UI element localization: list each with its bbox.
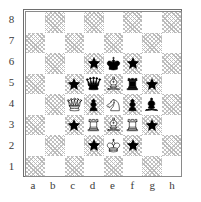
- square-a2[interactable]: [26, 135, 45, 156]
- square-e5[interactable]: [104, 74, 123, 95]
- square-h5[interactable]: [162, 74, 181, 95]
- square-g1[interactable]: [142, 156, 161, 177]
- rank-label-5: 5: [0, 72, 23, 93]
- square-a8[interactable]: [26, 12, 45, 33]
- square-e4[interactable]: [104, 94, 123, 115]
- file-label-d: d: [83, 180, 103, 200]
- square-c6[interactable]: [65, 53, 84, 74]
- file-label-a: a: [23, 180, 43, 200]
- star-marker-icon: [142, 115, 161, 136]
- square-g3[interactable]: [142, 115, 161, 136]
- square-a5[interactable]: [26, 74, 45, 95]
- square-e2[interactable]: [104, 135, 123, 156]
- square-b3[interactable]: [45, 115, 64, 136]
- square-d6[interactable]: [84, 53, 103, 74]
- rank-label-2: 2: [0, 135, 23, 156]
- square-d2[interactable]: [84, 135, 103, 156]
- star-marker-icon: [123, 135, 142, 156]
- white-bishop-icon: [104, 115, 123, 136]
- square-c4[interactable]: [65, 94, 84, 115]
- square-c2[interactable]: [65, 135, 84, 156]
- square-f8[interactable]: [123, 12, 142, 33]
- black-king-icon: [104, 53, 123, 74]
- file-label-c: c: [63, 180, 83, 200]
- white-rook-icon: [84, 115, 103, 136]
- square-h7[interactable]: [162, 33, 181, 54]
- rank-label-8: 8: [0, 9, 23, 30]
- square-h3[interactable]: [162, 115, 181, 136]
- square-g7[interactable]: [142, 33, 161, 54]
- square-b2[interactable]: [45, 135, 64, 156]
- square-b6[interactable]: [45, 53, 64, 74]
- square-d8[interactable]: [84, 12, 103, 33]
- square-a1[interactable]: [26, 156, 45, 177]
- square-f2[interactable]: [123, 135, 142, 156]
- square-b8[interactable]: [45, 12, 64, 33]
- square-f1[interactable]: [123, 156, 142, 177]
- square-f6[interactable]: [123, 53, 142, 74]
- square-f7[interactable]: [123, 33, 142, 54]
- square-d1[interactable]: [84, 156, 103, 177]
- square-e3[interactable]: [104, 115, 123, 136]
- square-a7[interactable]: [26, 33, 45, 54]
- square-c5[interactable]: [65, 74, 84, 95]
- rank-label-6: 6: [0, 51, 23, 72]
- star-marker-icon: [65, 74, 84, 95]
- white-rook-icon: [123, 115, 142, 136]
- square-f3[interactable]: [123, 115, 142, 136]
- chess-diagram: 87654321 abcdefgh: [0, 0, 201, 202]
- square-g8[interactable]: [142, 12, 161, 33]
- square-g4[interactable]: [142, 94, 161, 115]
- square-d7[interactable]: [84, 33, 103, 54]
- black-bishop-icon: [142, 94, 161, 115]
- square-g2[interactable]: [142, 135, 161, 156]
- square-b4[interactable]: [45, 94, 64, 115]
- square-c8[interactable]: [65, 12, 84, 33]
- square-h6[interactable]: [162, 53, 181, 74]
- square-e8[interactable]: [104, 12, 123, 33]
- square-h4[interactable]: [162, 94, 181, 115]
- square-h8[interactable]: [162, 12, 181, 33]
- white-king-icon: [104, 135, 123, 156]
- square-c1[interactable]: [65, 156, 84, 177]
- square-a3[interactable]: [26, 115, 45, 136]
- star-marker-icon: [84, 135, 103, 156]
- square-f4[interactable]: [123, 94, 142, 115]
- square-d5[interactable]: [84, 74, 103, 95]
- file-label-row: abcdefgh: [23, 180, 182, 200]
- square-b7[interactable]: [45, 33, 64, 54]
- square-a4[interactable]: [26, 94, 45, 115]
- board-frame: [23, 9, 182, 177]
- black-rook-icon: [123, 74, 142, 95]
- square-c7[interactable]: [65, 33, 84, 54]
- rank-label-7: 7: [0, 30, 23, 51]
- square-d4[interactable]: [84, 94, 103, 115]
- square-h1[interactable]: [162, 156, 181, 177]
- white-bishop-icon: [104, 74, 123, 95]
- file-label-b: b: [43, 180, 63, 200]
- square-b5[interactable]: [45, 74, 64, 95]
- square-d3[interactable]: [84, 115, 103, 136]
- white-queen-icon: [65, 94, 84, 115]
- square-a6[interactable]: [26, 53, 45, 74]
- square-g6[interactable]: [142, 53, 161, 74]
- square-e7[interactable]: [104, 33, 123, 54]
- square-f5[interactable]: [123, 74, 142, 95]
- chess-board: [25, 11, 182, 177]
- black-queen-icon: [84, 74, 103, 95]
- rank-label-4: 4: [0, 93, 23, 114]
- file-label-e: e: [103, 180, 123, 200]
- rank-label-column: 87654321: [0, 9, 23, 177]
- star-marker-icon: [142, 74, 161, 95]
- square-h2[interactable]: [162, 135, 181, 156]
- square-b1[interactable]: [45, 156, 64, 177]
- square-c3[interactable]: [65, 115, 84, 136]
- rank-label-1: 1: [0, 156, 23, 177]
- rank-label-3: 3: [0, 114, 23, 135]
- white-knight-icon: [104, 94, 123, 115]
- square-g5[interactable]: [142, 74, 161, 95]
- file-label-g: g: [142, 180, 162, 200]
- square-e1[interactable]: [104, 156, 123, 177]
- square-e6[interactable]: [104, 53, 123, 74]
- star-marker-icon: [123, 53, 142, 74]
